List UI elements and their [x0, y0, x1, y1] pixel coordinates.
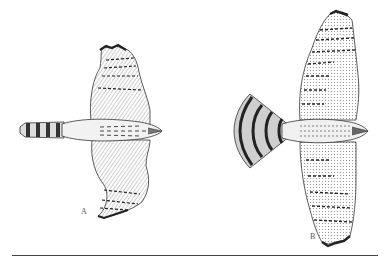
hawk-a: [20, 45, 162, 218]
hawk-b: [234, 11, 368, 246]
figure-label-a: A: [81, 207, 87, 216]
figure-label-b: B: [310, 232, 315, 241]
horizontal-rule: [12, 255, 378, 256]
hawk-illustrations: A: [0, 0, 386, 262]
illustration-plate: A: [0, 0, 386, 262]
